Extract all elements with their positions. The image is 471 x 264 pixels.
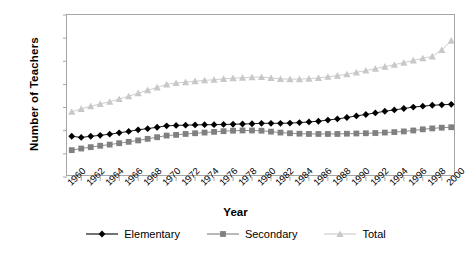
- x-tick-label: 1976: [217, 165, 240, 188]
- x-tick-label: 1998: [425, 165, 448, 188]
- legend-item-elementary[interactable]: Elementary: [85, 228, 180, 240]
- x-tick-label: 1984: [292, 165, 315, 188]
- x-tick-label: 1970: [160, 165, 183, 188]
- x-tick-label: 1974: [198, 165, 221, 188]
- legend-label: Secondary: [245, 228, 298, 240]
- legend-item-secondary[interactable]: Secondary: [206, 228, 298, 240]
- x-tick-label: 1968: [141, 165, 164, 188]
- legend-marker-diamond-icon: [85, 228, 119, 240]
- x-tick-label: 1996: [406, 165, 429, 188]
- x-tick-label: 1960: [65, 165, 88, 188]
- legend-marker-triangle-icon: [323, 228, 357, 240]
- legend-item-total[interactable]: Total: [323, 228, 385, 240]
- x-tick-label: 1988: [330, 165, 353, 188]
- x-tick-label: 1992: [368, 165, 391, 188]
- legend-marker-square-icon: [206, 228, 240, 240]
- legend-label: Total: [362, 228, 385, 240]
- legend-label: Elementary: [124, 228, 180, 240]
- x-tick-label: 1994: [387, 165, 410, 188]
- x-axis-tick-labels: 1960196219641966196819701972197419761978…: [0, 0, 471, 264]
- x-tick-label: 1986: [311, 165, 334, 188]
- x-axis-title: Year: [0, 206, 471, 218]
- x-tick-label: 1980: [255, 165, 278, 188]
- x-tick-label: 1964: [103, 165, 126, 188]
- x-tick-label: 2000: [444, 165, 467, 188]
- chart-legend: ElementarySecondaryTotal: [0, 228, 471, 240]
- x-tick-label: 1962: [84, 165, 107, 188]
- x-tick-label: 1990: [349, 165, 372, 188]
- chart-figure: Number of Teachers 050000010000001500000…: [0, 0, 471, 264]
- x-tick-label: 1982: [273, 165, 296, 188]
- x-tick-label: 1978: [236, 165, 259, 188]
- x-tick-label: 1972: [179, 165, 202, 188]
- x-tick-label: 1966: [122, 165, 145, 188]
